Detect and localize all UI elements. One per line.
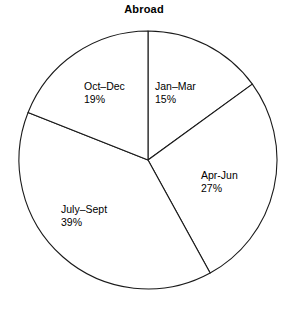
slice-label-july-sept-name: July–Sept bbox=[61, 203, 107, 216]
pie-chart-figure: Abroad Jan–Mar 15% Apr-Jun 27% July–Sept… bbox=[0, 0, 288, 320]
slice-label-apr-jun-name: Apr-Jun bbox=[201, 169, 238, 182]
slice-label-jan-mar-value: 15% bbox=[155, 93, 196, 106]
slice-label-july-sept-value: 39% bbox=[61, 216, 107, 229]
slice-label-oct-dec: Oct–Dec 19% bbox=[84, 80, 125, 106]
slice-label-jan-mar: Jan–Mar 15% bbox=[155, 80, 196, 106]
slice-label-july-sept: July–Sept 39% bbox=[61, 203, 107, 229]
slice-label-jan-mar-name: Jan–Mar bbox=[155, 80, 196, 93]
pie-slices-group bbox=[19, 31, 277, 289]
slice-label-apr-jun-value: 27% bbox=[201, 182, 238, 195]
slice-label-apr-jun: Apr-Jun 27% bbox=[201, 169, 238, 195]
slice-label-oct-dec-value: 19% bbox=[84, 93, 125, 106]
pie-svg bbox=[0, 0, 288, 320]
slice-label-oct-dec-name: Oct–Dec bbox=[84, 80, 125, 93]
